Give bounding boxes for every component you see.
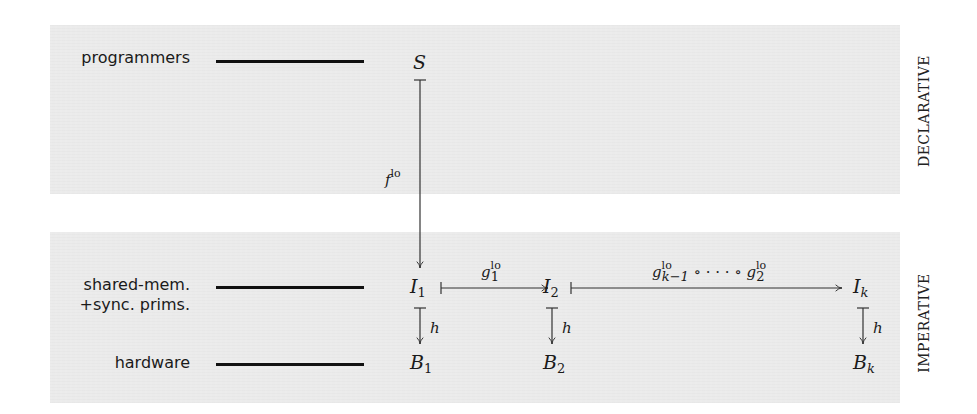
edge-label-h-2: h <box>562 318 572 338</box>
arrow-h-k <box>857 308 869 344</box>
node-Bk: Bk <box>853 352 875 372</box>
node-S: S <box>413 52 426 72</box>
node-B1: B1 <box>410 352 432 372</box>
arrow-h-1 <box>414 308 426 344</box>
edge-label-f: flo <box>385 170 401 190</box>
node-B2: B2 <box>543 352 565 372</box>
side-label-declarative: DECLARATIVE <box>916 46 934 176</box>
edge-label-h-k: h <box>873 318 883 338</box>
diagram-arrows <box>0 0 977 414</box>
edge-label-g1: glo1 <box>481 262 499 282</box>
arrow-g-chain <box>571 282 842 294</box>
arrow-h-2 <box>546 308 558 344</box>
side-label-imperative: IMPERATIVE <box>916 266 934 380</box>
arrow-f <box>414 80 426 268</box>
edge-label-h-1: h <box>430 318 440 338</box>
node-Ik: Ik <box>853 276 868 296</box>
edge-label-g-chain: glok−1 ∘ · · · ∘ glo2 <box>652 262 764 282</box>
node-I2: I2 <box>543 276 559 296</box>
node-I1: I1 <box>410 276 426 296</box>
